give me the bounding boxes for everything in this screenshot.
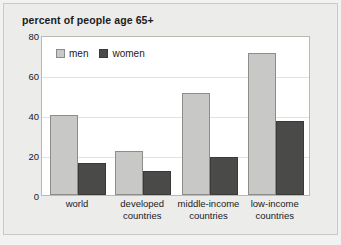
bar-men-middle-income-countries (182, 93, 210, 195)
x-tick-line: countries (241, 210, 308, 222)
legend-label-women: women (112, 48, 144, 59)
y-tick-80: 80 (5, 31, 39, 42)
x-tick-line: middle-income (175, 198, 242, 210)
x-tick-line: countries (175, 210, 242, 222)
x-tick-line: developed (109, 198, 176, 210)
y-tick-40: 40 (5, 111, 39, 122)
x-tick-middle-income-countries: middle-incomecountries (175, 198, 242, 221)
bar-women-middle-income-countries (210, 157, 238, 195)
x-tick-line: countries (109, 210, 176, 222)
bar-men-developed-countries (115, 151, 143, 195)
bar-women-developed-countries (143, 171, 171, 195)
legend-label-men: men (69, 48, 88, 59)
legend-entry-men: men (56, 48, 88, 59)
chart-figure: percent of people age 65+ 80 60 40 20 0 … (0, 0, 341, 245)
chart-title: percent of people age 65+ (22, 14, 154, 26)
bar-men-world (50, 115, 78, 195)
legend-entry-women: women (99, 48, 144, 59)
y-tick-60: 60 (5, 71, 39, 82)
chart-legend: men women (56, 48, 145, 59)
y-axis: 80 60 40 20 0 (2, 36, 39, 196)
plot-area: men women (41, 36, 310, 196)
bar-women-low-income-countries (276, 121, 304, 195)
x-tick-line: low-income (241, 198, 308, 210)
x-tick-low-income-countries: low-incomecountries (241, 198, 308, 221)
legend-swatch-women-icon (99, 49, 108, 58)
bar-women-world (78, 163, 106, 195)
y-tick-0: 0 (5, 191, 39, 202)
y-tick-20: 20 (5, 151, 39, 162)
x-tick-line: world (43, 198, 110, 210)
legend-swatch-men-icon (56, 49, 65, 58)
x-axis: worlddevelopedcountriesmiddle-incomecoun… (41, 198, 310, 232)
bars-layer (42, 37, 309, 195)
x-tick-developed-countries: developedcountries (109, 198, 176, 221)
x-tick-world: world (43, 198, 110, 210)
bar-men-low-income-countries (248, 53, 276, 195)
